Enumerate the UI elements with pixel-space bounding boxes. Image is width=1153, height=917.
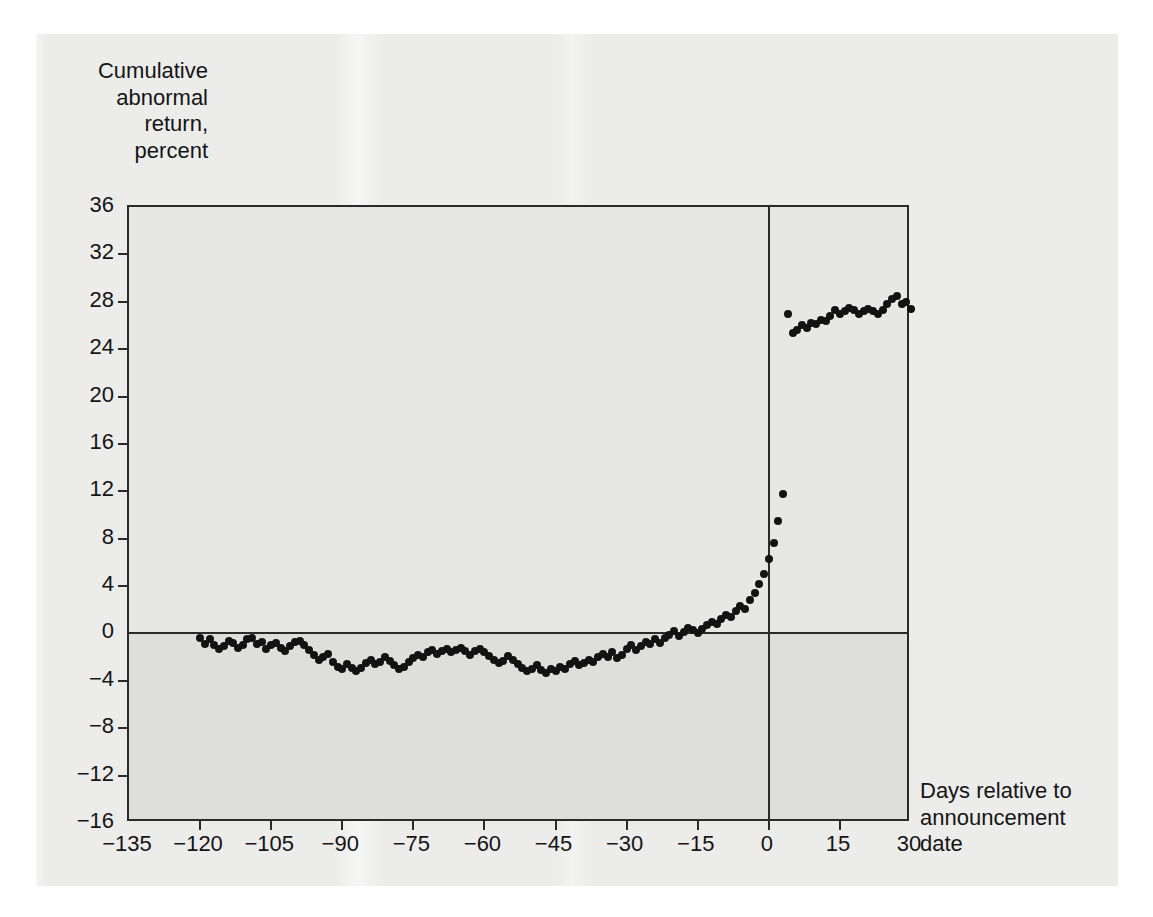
x-axis-tick-label: −75 xyxy=(371,833,451,855)
x-axis-tick-label: 0 xyxy=(727,833,807,855)
y-axis-tick xyxy=(118,253,129,255)
y-axis-tick xyxy=(118,775,129,777)
x-axis-tick xyxy=(341,819,343,830)
data-point xyxy=(907,305,915,313)
y-axis-tick xyxy=(118,585,129,587)
y-axis-tick-label: 24 xyxy=(22,336,114,358)
y-axis-tick xyxy=(118,443,129,445)
page: Cumulative abnormal return, percent 3632… xyxy=(0,0,1153,917)
x-axis-tick xyxy=(270,819,272,830)
y-axis-tick xyxy=(118,538,129,540)
y-axis-tick-label: 36 xyxy=(22,194,114,216)
y-axis-tick-label: 32 xyxy=(22,241,114,263)
y-axis-tick xyxy=(118,680,129,682)
plot-area xyxy=(127,205,909,821)
y-axis-tick-label: −12 xyxy=(22,763,114,785)
data-point xyxy=(765,555,773,563)
y-axis-tick xyxy=(118,490,129,492)
announcement-date-line xyxy=(768,207,770,819)
data-point xyxy=(770,539,778,547)
y-axis-tick-label: −8 xyxy=(22,715,114,737)
zero-baseline xyxy=(129,632,907,634)
x-axis-tick-label: −15 xyxy=(656,833,736,855)
y-axis-tick xyxy=(118,727,129,729)
y-axis-tick-label: 16 xyxy=(22,431,114,453)
x-axis-tick xyxy=(412,819,414,830)
x-axis-tick-label: −60 xyxy=(442,833,522,855)
x-axis-tick-label: −120 xyxy=(158,833,238,855)
y-axis-tick xyxy=(118,348,129,350)
y-axis-tick-label: 28 xyxy=(22,289,114,311)
y-axis-tick-label: 0 xyxy=(22,620,114,642)
y-axis-tick-label: 4 xyxy=(22,573,114,595)
y-axis-tick-label: −16 xyxy=(22,810,114,832)
x-axis-tick-label: −105 xyxy=(229,833,309,855)
y-axis-tick xyxy=(118,396,129,398)
x-axis-tick-label: 15 xyxy=(798,833,878,855)
y-axis-tick-label: −4 xyxy=(22,668,114,690)
x-axis-tick xyxy=(555,819,557,830)
data-point xyxy=(324,650,332,658)
x-axis-title: Days relative to announcement date xyxy=(920,778,1150,858)
x-axis-tick xyxy=(697,819,699,830)
cumulative-abnormal-return-chart: Cumulative abnormal return, percent 3632… xyxy=(0,0,1153,917)
x-axis-tick xyxy=(768,819,770,830)
data-point xyxy=(784,310,792,318)
x-axis-tick xyxy=(199,819,201,830)
data-point xyxy=(774,517,782,525)
data-point xyxy=(746,596,754,604)
x-axis-tick-label: −135 xyxy=(87,833,167,855)
x-axis-tick xyxy=(626,819,628,830)
data-point xyxy=(893,292,901,300)
y-axis-tick-label: 8 xyxy=(22,526,114,548)
y-axis-title: Cumulative abnormal return, percent xyxy=(28,58,208,164)
y-axis-tick-label: 12 xyxy=(22,478,114,500)
y-axis-tick xyxy=(118,301,129,303)
data-point xyxy=(741,605,749,613)
data-point xyxy=(755,580,763,588)
x-axis-tick-label: −90 xyxy=(300,833,380,855)
x-axis-tick xyxy=(839,819,841,830)
data-point xyxy=(779,490,787,498)
y-axis-tick-label: 20 xyxy=(22,384,114,406)
x-axis-tick-label: −30 xyxy=(585,833,665,855)
x-axis-tick xyxy=(483,819,485,830)
x-axis-tick-label: −45 xyxy=(514,833,594,855)
data-point xyxy=(751,589,759,597)
